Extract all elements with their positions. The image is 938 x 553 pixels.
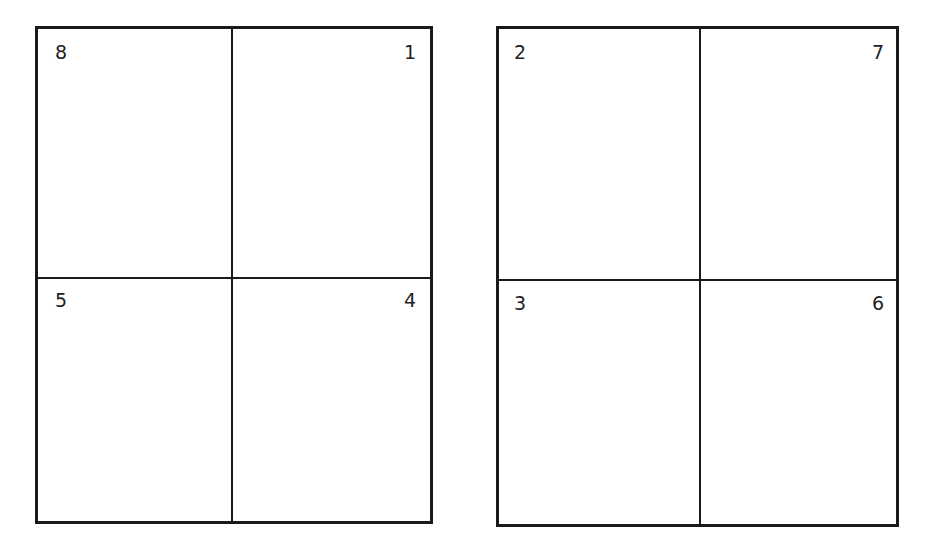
page-number: 8 [55,43,67,62]
page-number: 7 [872,43,884,62]
page-number: 4 [404,291,416,310]
fold-line-horizontal [499,279,896,281]
fold-line-vertical [231,29,233,521]
page-number: 6 [872,294,884,313]
fold-line-horizontal [38,277,430,279]
page-number: 1 [404,43,416,62]
page-number: 2 [514,43,526,62]
fold-line-vertical [699,29,701,524]
left-sheet: 8 1 5 4 [35,26,433,524]
page-number: 3 [514,294,526,313]
right-sheet: 2 7 3 6 [496,26,899,527]
page-number: 5 [55,291,67,310]
